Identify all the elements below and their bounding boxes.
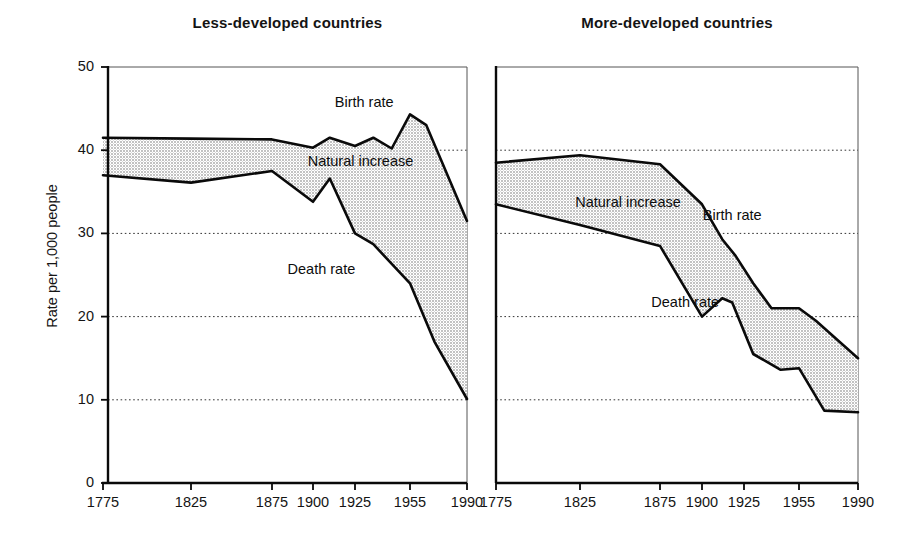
plot-canvas — [0, 0, 920, 544]
natural-increase-bands — [103, 114, 858, 412]
y-tick-label-20: 20 — [42, 308, 94, 324]
y-tick-label-0: 0 — [42, 474, 94, 490]
x-tick-label-1775: 1775 — [75, 494, 131, 510]
x-tick-label-1990: 1990 — [830, 494, 886, 510]
x-tick-label-1825: 1825 — [163, 494, 219, 510]
annotation-natural-increase: Natural increase — [308, 153, 414, 169]
x-tick-label-1825: 1825 — [552, 494, 608, 510]
x-tick-label-1925: 1925 — [716, 494, 772, 510]
x-tick-label-1955: 1955 — [771, 494, 827, 510]
y-tick-label-50: 50 — [42, 58, 94, 74]
annotation-birth-rate: Birth rate — [703, 207, 762, 223]
x-tick-label-1955: 1955 — [382, 494, 438, 510]
x-tick-label-1775: 1775 — [468, 494, 524, 510]
annotation-natural-increase: Natural increase — [575, 194, 681, 210]
y-tick-label-40: 40 — [42, 141, 94, 157]
annotation-death-rate: Death rate — [651, 294, 719, 310]
x-tick-label-1925: 1925 — [327, 494, 383, 510]
y-tick-label-30: 30 — [42, 224, 94, 240]
annotation-death-rate: Death rate — [288, 261, 356, 277]
annotation-birth-rate: Birth rate — [335, 94, 394, 110]
y-tick-label-10: 10 — [42, 391, 94, 407]
chart-figure: Less-developed countries More-developed … — [0, 0, 920, 544]
